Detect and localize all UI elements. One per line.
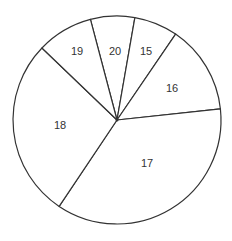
pie-chart: 201516171819 (0, 0, 232, 241)
pie-chart-svg: 201516171819 (0, 0, 232, 241)
slice-label-16: 16 (166, 82, 178, 94)
slice-label-17: 17 (141, 157, 153, 169)
slice-label-19: 19 (71, 45, 83, 57)
slice-label-20: 20 (109, 45, 121, 57)
slice-label-18: 18 (54, 119, 66, 131)
slice-label-15: 15 (140, 45, 152, 57)
pie-center-dot (116, 119, 119, 122)
